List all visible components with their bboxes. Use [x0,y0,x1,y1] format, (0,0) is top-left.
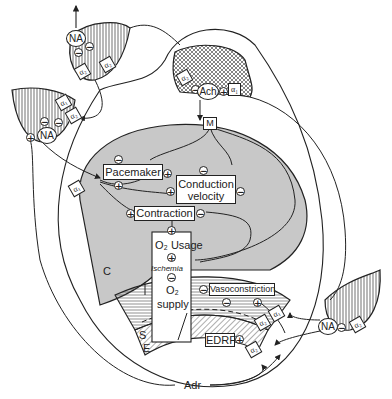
plus-sign: + [253,298,262,307]
na-release-site-left: NA [37,127,57,144]
minus-sign: − [167,273,176,282]
minus-sign: − [40,117,49,126]
diagram-canvas: C S E M Pacemaker − + + Conduction veloc… [0,0,392,399]
region-label-smooth-muscle: S [139,330,146,341]
contraction-box: Contraction [134,206,195,221]
adrenaline-label: Adr [184,380,201,391]
na-release-site-top: NA [66,30,86,47]
o2-supply-line2: supply [157,299,189,310]
plus-sign: + [219,87,228,96]
conduction-line1: Conduction [177,178,235,190]
edrf-box: EDRF [205,333,235,347]
region-label-endothelium: E [143,343,150,354]
ischemia-label: Ischemia [151,265,183,273]
conduction-velocity-box: Conduction velocity [176,175,236,204]
minus-sign: − [196,209,205,218]
pacemaker-box: Pacemaker [103,164,163,180]
minus-sign: − [199,285,208,294]
o2-supply-line1: O₂ [166,285,179,296]
minus-sign: − [54,118,63,127]
plus-sign: + [167,253,176,262]
minus-sign: − [337,323,346,332]
minus-sign: − [236,187,245,196]
minus-sign: − [199,166,208,175]
ach-release-site: Ach [197,83,219,100]
region-label-cardiac: C [103,266,111,277]
muscarinic-receptor-box: M [203,117,217,130]
minus-sign: − [74,48,83,57]
plus-sign: + [235,335,244,344]
plus-sign: + [163,169,172,178]
na-release-site-right: NA [318,318,338,335]
minus-sign: − [222,298,231,307]
plus-sign: + [167,226,176,235]
cholinergic-alpha1-receptor: α₁ [228,83,241,96]
vasoconstriction-box: Vasoconstriction [209,283,275,296]
conduction-line2: velocity [177,190,235,202]
minus-sign: − [85,42,94,51]
plus-sign: + [26,133,35,142]
plus-sign: + [126,209,135,218]
minus-sign: − [114,155,123,164]
o2-usage-label: O₂ Usage [155,240,203,251]
plus-sign: + [114,181,123,190]
plus-sign: + [166,187,175,196]
